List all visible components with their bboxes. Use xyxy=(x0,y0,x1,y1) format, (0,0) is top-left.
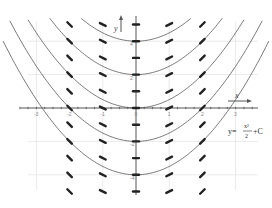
grid-lines xyxy=(28,22,258,190)
slope-segment xyxy=(100,73,106,76)
x-tick-label: 1 xyxy=(168,111,171,117)
slope-segment xyxy=(100,157,106,160)
slope-segment xyxy=(166,23,172,26)
x-tick-label: -1 xyxy=(100,111,105,117)
slope-segment xyxy=(166,157,172,160)
y-tick-label: 4 xyxy=(130,41,133,47)
slope-segment xyxy=(166,173,172,176)
slope-segment xyxy=(100,107,106,110)
slope-segment xyxy=(200,72,205,77)
slope-segment xyxy=(200,106,205,111)
slope-segment xyxy=(100,90,106,93)
slope-segment xyxy=(67,56,72,61)
slope-segment xyxy=(166,123,172,126)
slope-segment xyxy=(166,107,172,110)
slope-segment xyxy=(67,122,72,127)
slope-segment xyxy=(100,23,106,26)
slope-segment xyxy=(166,73,172,76)
slope-segment xyxy=(166,90,172,93)
slope-segment xyxy=(166,56,172,59)
slope-segment xyxy=(67,173,72,178)
x-axis-label: x xyxy=(234,91,239,100)
slope-segment xyxy=(100,40,106,43)
slope-segment xyxy=(67,189,72,194)
slope-segment xyxy=(166,140,172,143)
slope-segment xyxy=(67,72,72,77)
slope-segment xyxy=(100,140,106,143)
slope-segment xyxy=(67,139,72,144)
slope-segment xyxy=(100,123,106,126)
y-arrowhead-icon xyxy=(119,15,123,20)
slope-segment xyxy=(166,190,172,193)
slope-segment xyxy=(200,22,205,27)
x-tick-label: -3 xyxy=(34,111,39,117)
slope-segment xyxy=(200,122,205,127)
slope-segment xyxy=(200,173,205,178)
y-tick-label: 2 xyxy=(130,75,133,81)
y-tick-label: -2 xyxy=(130,141,135,147)
slope-field-chart: -3-2-1012342-2-4 y x y= x² 2 +C xyxy=(0,0,272,208)
slope-segment xyxy=(67,106,72,111)
x-arrowhead-icon xyxy=(247,99,252,103)
x-tick-label: 2 xyxy=(201,111,204,117)
slope-segment xyxy=(100,190,106,193)
slope-segment xyxy=(67,89,72,94)
formula-denominator: 2 xyxy=(245,133,248,139)
formula-numerator: x² xyxy=(244,123,249,129)
slope-segment xyxy=(200,39,205,44)
slope-segment xyxy=(67,39,72,44)
formula-lhs: y= xyxy=(228,127,237,136)
formula-annotation: y= x² 2 +C xyxy=(228,123,263,139)
slope-segment xyxy=(166,40,172,43)
x-tick-label: -2 xyxy=(67,111,72,117)
slope-segment xyxy=(100,56,106,59)
formula-rhs: +C xyxy=(253,127,263,136)
x-tick-label: 0 xyxy=(135,111,138,117)
slope-segment xyxy=(200,89,205,94)
slope-segment xyxy=(200,189,205,194)
slope-segment xyxy=(200,156,205,161)
y-axis-label: y xyxy=(113,24,118,33)
slope-segment xyxy=(67,156,72,161)
y-tick-label: -4 xyxy=(130,175,135,181)
slope-segment xyxy=(200,139,205,144)
slope-segment xyxy=(200,56,205,61)
slope-segment xyxy=(67,22,72,27)
x-tick-label: 3 xyxy=(234,111,237,117)
slope-segment xyxy=(100,173,106,176)
axes xyxy=(20,16,258,195)
